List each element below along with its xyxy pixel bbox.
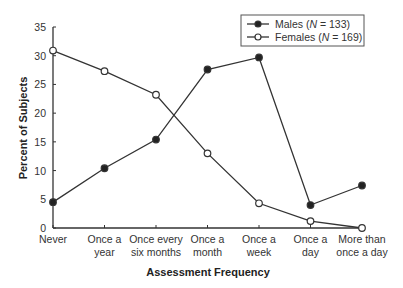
data-point-females <box>307 218 314 225</box>
series-lines <box>50 47 366 231</box>
data-point-females <box>359 225 366 232</box>
series-line-females <box>53 51 362 228</box>
x-tick-label: Once a <box>88 233 122 245</box>
data-point-females <box>153 91 160 98</box>
data-point-males <box>101 165 108 172</box>
x-tick-label: week <box>246 246 272 258</box>
x-tick-label: More than <box>338 233 385 245</box>
axes: 05101520253035NeverOnce ayearOnce everys… <box>34 21 388 258</box>
y-tick-label: 35 <box>34 21 46 33</box>
data-point-males <box>153 136 160 143</box>
data-point-females <box>204 150 211 157</box>
x-tick-label: Once a <box>294 233 328 245</box>
legend-marker <box>255 21 261 27</box>
x-tick-label: Once every <box>129 233 183 245</box>
y-tick-label: 30 <box>34 50 46 62</box>
y-tick-label: 5 <box>40 193 46 205</box>
data-point-males <box>256 54 263 61</box>
legend-label: Females (N = 169) <box>275 31 362 43</box>
x-axis-label: Assessment Frequency <box>146 266 270 278</box>
legend-marker <box>255 34 261 40</box>
x-tick-label: six months <box>131 246 181 258</box>
line-chart: 05101520253035NeverOnce ayearOnce everys… <box>0 0 403 288</box>
x-tick-label: Once a <box>191 233 225 245</box>
legend: Males (N = 133)Females (N = 169) <box>241 15 364 46</box>
data-point-females <box>256 200 263 207</box>
data-point-males <box>307 202 314 209</box>
y-tick-label: 25 <box>34 78 46 90</box>
data-point-males <box>359 182 366 189</box>
series-line-males <box>53 57 362 205</box>
x-tick-label: Once a <box>242 233 276 245</box>
y-tick-label: 15 <box>34 136 46 148</box>
data-point-females <box>101 68 108 75</box>
data-point-males <box>50 199 57 206</box>
y-axis-label: Percent of Subjects <box>17 77 29 180</box>
x-tick-label: day <box>302 246 320 258</box>
legend-label: Males (N = 133) <box>275 18 350 30</box>
data-point-males <box>204 66 211 73</box>
y-tick-label: 10 <box>34 165 46 177</box>
x-tick-label: Never <box>39 233 68 245</box>
x-tick-label: month <box>193 246 222 258</box>
data-point-females <box>50 47 57 54</box>
x-tick-label: once a day <box>336 246 388 258</box>
y-tick-label: 20 <box>34 107 46 119</box>
x-tick-label: year <box>94 246 115 258</box>
